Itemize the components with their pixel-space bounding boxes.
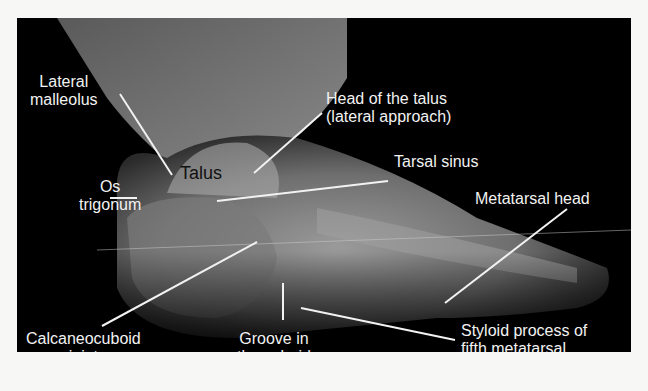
label-line: Styloid process of (461, 322, 587, 340)
label-head-of-talus: Head of the talus (lateral approach) (326, 90, 451, 126)
label-line: the cuboid (237, 348, 311, 352)
label-line: malleolus (30, 91, 98, 109)
label-lateral-malleolus: Lateral malleolus (30, 73, 98, 109)
label-tarsal-sinus: Tarsal sinus (394, 153, 478, 171)
label-line: Head of the talus (326, 90, 451, 108)
label-metatarsal-head: Metatarsal head (475, 190, 590, 208)
label-line: Calcaneocuboid (26, 330, 141, 348)
label-line: joint (26, 348, 141, 352)
label-line: Lateral (30, 73, 98, 91)
label-line: Groove in (237, 330, 311, 348)
label-os-trigonum: Os trigonum (79, 178, 141, 214)
label-line: trigonum (79, 196, 141, 214)
label-calcaneocuboid-joint: Calcaneocuboid joint (26, 330, 141, 352)
label-line: fifth metatarsal (461, 340, 587, 352)
label-styloid-process: Styloid process of fifth metatarsal (461, 322, 587, 352)
label-groove-cuboid: Groove in the cuboid (237, 330, 311, 352)
label-line: (lateral approach) (326, 108, 451, 126)
label-line: Os (79, 178, 141, 196)
xray-image: Lateral malleolus Head of the talus (lat… (17, 18, 631, 352)
label-talus: Talus (180, 164, 222, 182)
